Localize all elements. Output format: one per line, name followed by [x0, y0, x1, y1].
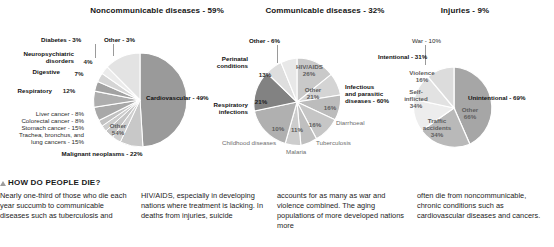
footer-column-4: often die from noncommunicable, chronic … — [417, 191, 551, 221]
label-lung-cancer-line2: lung cancers - 15% — [2, 138, 84, 145]
label-childhood-diseases: Childhood diseases — [222, 139, 276, 146]
label-respiratory-infections-line2: infections — [190, 108, 248, 115]
value-diarrhoeal: 16% — [322, 104, 338, 111]
value-respiratory-infections: 21% — [252, 98, 270, 105]
label-tuberculosis: Tuberculosis — [316, 139, 351, 146]
label-malignant-other: Other — [107, 122, 129, 129]
footer-column-2: HIV/AIDS, especially in developing natio… — [141, 191, 273, 221]
label-hivaids: HIV/AIDS — [296, 63, 322, 70]
label-self-inflicted-line2: inflicted — [402, 95, 430, 102]
label-infectious-line3: diseases - 60% — [345, 97, 389, 104]
value-self-inflicted: 34% — [402, 102, 430, 109]
label-diarrhoeal: Diarrhoeal — [336, 119, 365, 126]
triangle-marker-icon — [0, 181, 6, 186]
label-malignant-neoplasms: Malignant neoplasms - 22% — [32, 150, 172, 157]
infographic-root: Noncommunicable diseases - 59% Communica… — [0, 0, 554, 247]
label-malaria: Malaria — [286, 148, 306, 155]
label-respiratory: Respiratory — [4, 87, 52, 94]
value-digestive: 7% — [71, 70, 87, 77]
label-diabetes: Diabetes - 3% — [41, 36, 81, 43]
label-perinatal-line2: conditions — [196, 62, 248, 69]
leader-diabetes — [95, 44, 96, 58]
label-unintentional: Unintentional - 69% — [468, 94, 525, 101]
value-unintentional-other: 66% — [458, 113, 482, 120]
footer-column-3: accounts for as many as war and violence… — [277, 191, 413, 231]
footer-column-1: Nearly one-third of those who die each y… — [0, 191, 132, 221]
pie-chart-noncommunicable — [92, 52, 188, 152]
label-digestive: Digestive — [8, 68, 60, 75]
value-malignant-other: 54% — [107, 129, 129, 136]
label-violence: Violence — [407, 69, 437, 76]
footer-block: HOW DO PEOPLE DIE? Nearly one-third of t… — [0, 175, 554, 247]
value-traffic-accidents: 34% — [421, 131, 453, 138]
value-neuropsychiatric: 4% — [80, 58, 96, 65]
column-title-injuries: Injuries - 9% — [395, 6, 535, 15]
value-childhood-diseases: 10% — [270, 125, 286, 132]
label-war: War - 10% — [412, 37, 441, 44]
label-other-noncomm: Other - 3% — [104, 36, 135, 43]
value-respiratory: 12% — [60, 87, 78, 94]
label-intentional: Intentional - 31% — [378, 53, 427, 60]
leader-other-noncomm — [113, 44, 114, 56]
value-malaria: 11% — [289, 126, 305, 133]
value-perinatal: 13% — [256, 71, 274, 78]
label-other-communicable: Other - 6% — [249, 37, 280, 44]
label-traffic-accidents-line1: Traffic — [421, 117, 453, 124]
value-other-infectious: 21% — [302, 93, 324, 100]
label-unintentional-other: Other — [458, 106, 482, 113]
label-self-inflicted-line1: Self- — [402, 88, 430, 95]
label-traffic-accidents-line2: accidents — [421, 124, 453, 131]
value-violence: 16% — [407, 76, 437, 83]
label-other-infectious: Other — [302, 86, 324, 93]
value-tuberculosis: 16% — [307, 121, 323, 128]
footer-headline: HOW DO PEOPLE DIE? — [8, 178, 101, 187]
label-neuropsychiatric-line2: disorders — [4, 57, 74, 64]
leader-other-communicable — [277, 45, 278, 63]
value-hivaids: 26% — [296, 70, 322, 77]
